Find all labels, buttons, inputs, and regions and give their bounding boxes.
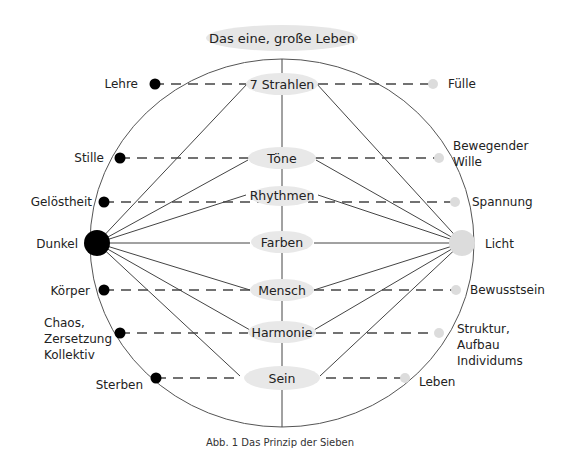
- label-chaos-line1: Chaos,: [44, 316, 85, 330]
- label-wille: Wille: [453, 155, 482, 169]
- label-leben: Leben: [419, 375, 455, 389]
- label-spannung: Spannung: [472, 195, 533, 209]
- node-label: Harmonie: [252, 325, 313, 340]
- dot-lehre: [150, 79, 161, 90]
- dot-chaos: [115, 328, 126, 339]
- label-sterben: Sterben: [96, 378, 143, 392]
- dot-struktur: [434, 328, 444, 338]
- label-fuelle: Fülle: [448, 77, 476, 91]
- label-stille: Stille: [74, 151, 104, 165]
- dot-stille: [115, 153, 126, 164]
- label-struktur-line3: Individums: [457, 354, 523, 368]
- dot-leben: [400, 373, 410, 383]
- label-bewegender: Bewegender: [453, 139, 528, 153]
- left-labels: Lehre Stille Gelöstheit Dunkel Körper Ch…: [31, 77, 143, 392]
- diagram-title: Das eine, große Leben: [209, 31, 355, 46]
- node-label: Sein: [268, 371, 295, 386]
- node-label: Rhythmen: [250, 188, 315, 203]
- label-licht: Licht: [485, 237, 514, 251]
- dot-koerper: [99, 285, 110, 296]
- label-chaos-line3: Kollektiv: [44, 348, 95, 362]
- label-geloestheit: Gelöstheit: [31, 195, 93, 209]
- label-lehre: Lehre: [104, 77, 138, 91]
- dot-bewusstsein: [451, 285, 461, 295]
- dot-geloestheit: [99, 197, 110, 208]
- node-label: Töne: [266, 151, 297, 166]
- label-koerper: Körper: [51, 284, 91, 298]
- right-labels: Fülle Bewegender Wille Spannung Licht Be…: [419, 77, 545, 389]
- label-struktur-line1: Struktur,: [457, 322, 510, 336]
- dot-bewegender-wille: [434, 153, 444, 163]
- node-label: 7 Strahlen: [250, 77, 315, 92]
- dot-sterben: [151, 373, 162, 384]
- figure-caption: Abb. 1 Das Prinzip der Sieben: [206, 437, 354, 448]
- dot-licht: [449, 230, 475, 256]
- dot-spannung: [450, 197, 460, 207]
- node-label: Farben: [261, 235, 303, 250]
- label-bewusstsein: Bewusstsein: [470, 283, 545, 297]
- dot-dunkel: [84, 230, 110, 256]
- dot-fuelle: [428, 79, 438, 89]
- label-struktur-line2: Aufbau: [457, 338, 500, 352]
- seven-principle-diagram: Das eine, große Leben: [0, 0, 568, 468]
- label-dunkel: Dunkel: [36, 237, 78, 251]
- label-chaos-line2: Zersetzung: [44, 332, 112, 346]
- node-label: Mensch: [258, 283, 306, 298]
